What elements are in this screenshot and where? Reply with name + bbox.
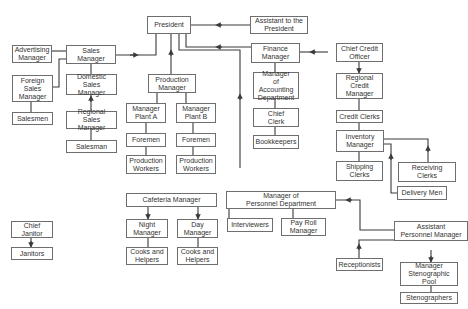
node-stenographers: Stenographers: [400, 292, 458, 304]
node-chief-clerk: Chief Clerk: [253, 108, 299, 127]
node-regional-credit-manager: Regional Credit Manager: [336, 73, 383, 99]
node-regional-sales-manager: Regional Sales Manager: [66, 111, 117, 129]
node-domestic-sales-manager: Domestic Sales Manager: [66, 74, 117, 95]
node-production-workers-a: Production Workers: [126, 155, 166, 174]
node-cooks-helpers-day: Cooks and Helpers: [177, 247, 218, 265]
node-receptionists: Receptionists: [336, 258, 383, 271]
node-receiving-clerks: Receiving Clerks: [398, 162, 456, 182]
node-finance-manager: Finance Manager: [251, 43, 300, 63]
node-night-manager: Night Manager: [126, 219, 168, 238]
node-chief-credit-officer: Chief Credit Officer: [336, 43, 383, 62]
node-production-workers-b: Production Workers: [176, 155, 216, 174]
node-foremen-b: Foremen: [176, 133, 216, 147]
node-manager-personnel-department: Manager of Personnel Department: [226, 191, 336, 209]
node-production-manager: Production Manager: [148, 74, 196, 93]
node-cooks-helpers-night: Cooks and Helpers: [126, 247, 168, 265]
node-cafeteria-manager: Cafeteria Manager: [126, 193, 217, 207]
node-credit-clerks: Credit Clerks: [336, 110, 383, 123]
node-janitors: Janitors: [11, 247, 53, 260]
node-manager-plant-a: Manager Plant A: [126, 103, 166, 123]
node-salesmen: Salesmen: [12, 112, 53, 125]
node-manager-plant-b: Manager Plant B: [176, 103, 216, 123]
node-advertising-manager: Advertising Manager: [12, 45, 52, 63]
node-salesman: Salesman: [66, 140, 117, 153]
node-assistant-personnel-manager: Assistant Personnel Manager: [394, 221, 468, 241]
node-delivery-men: Delivery Men: [397, 186, 447, 200]
node-interviewers: Interviewers: [227, 218, 273, 232]
node-shipping-clerks: Shipping Clerks: [336, 161, 383, 181]
node-assistant-to-president: Assistant to the President: [250, 16, 308, 34]
node-sales-manager: Sales Manager: [66, 45, 116, 64]
node-bookkeepers: Bookkeepers: [253, 135, 299, 149]
node-chief-janitor: Chief Janitor: [11, 221, 53, 238]
node-president: President: [147, 16, 191, 34]
node-manager-accounting-department: Manager of Accounting Department: [253, 72, 299, 99]
node-payroll-manager: Pay Roll Manager: [281, 218, 326, 236]
node-inventory-manager: Inventory Manager: [336, 130, 384, 152]
node-manager-stenographic-pool: Manager Stenographic Pool: [400, 262, 458, 286]
node-foreign-sales-manager: Foreign Sales Manager: [12, 75, 53, 102]
node-day-manager: Day Manager: [177, 219, 218, 238]
node-foremen-a: Foremen: [126, 133, 166, 147]
